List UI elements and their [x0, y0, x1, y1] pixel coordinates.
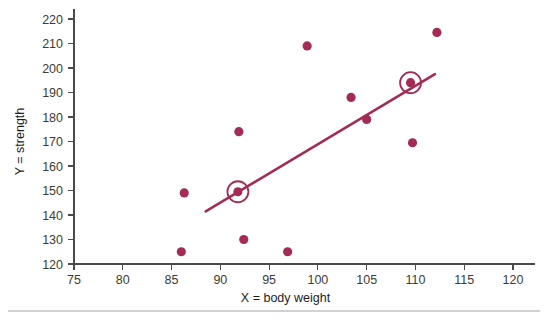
data-point — [303, 41, 312, 50]
x-tick-label: 85 — [165, 273, 179, 287]
y-tick-label: 190 — [42, 86, 63, 100]
data-point — [177, 247, 186, 256]
x-tick-label: 80 — [116, 273, 130, 287]
data-point — [346, 93, 355, 102]
y-tick-label: 120 — [42, 258, 63, 272]
data-point — [234, 127, 243, 136]
y-axis: 120130140150160170180190200210220 — [42, 9, 74, 272]
y-tick-label: 160 — [42, 160, 63, 174]
y-tick-label: 180 — [42, 111, 63, 125]
x-tick-label: 115 — [454, 273, 474, 287]
scatterplot-figure: 120130140150160170180190200210220 758085… — [0, 0, 548, 320]
y-tick-label: 150 — [42, 184, 63, 198]
x-tick-label: 90 — [213, 273, 227, 287]
x-tick-label: 110 — [405, 273, 425, 287]
y-tick-label: 140 — [42, 209, 63, 223]
data-series — [177, 28, 442, 256]
y-tick-label: 170 — [42, 135, 63, 149]
x-axis-title: X = body weight — [241, 291, 331, 305]
regression-line-segment — [206, 74, 435, 211]
data-point — [408, 138, 417, 147]
data-point — [283, 247, 292, 256]
y-tick-label: 130 — [42, 233, 63, 247]
data-point — [239, 235, 248, 244]
x-tick-label: 120 — [503, 273, 524, 287]
x-axis: 7580859095100105110115120 — [67, 264, 535, 287]
y-tick-label: 210 — [42, 37, 63, 51]
data-point — [432, 28, 441, 37]
x-tick-label: 100 — [307, 273, 328, 287]
x-tick-label: 95 — [262, 273, 276, 287]
x-tick-label: 105 — [356, 273, 377, 287]
y-tick-label: 220 — [42, 13, 63, 27]
regression-line — [206, 74, 435, 211]
x-tick-label: 75 — [67, 273, 81, 287]
scatter-chart: 120130140150160170180190200210220 758085… — [0, 0, 548, 320]
y-axis-title: Y = strength — [13, 108, 27, 176]
y-tick-label: 200 — [42, 62, 63, 76]
data-point — [180, 188, 189, 197]
